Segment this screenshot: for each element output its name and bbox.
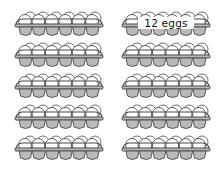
carton-label: 12 eggs	[138, 17, 194, 29]
egg-carton	[120, 41, 212, 68]
egg-carton	[120, 134, 212, 161]
egg-carton	[13, 41, 105, 68]
egg-carton	[13, 10, 105, 37]
egg-carton: 12 eggs	[120, 10, 212, 37]
egg-carton	[13, 72, 105, 99]
egg-carton	[13, 103, 105, 130]
egg-carton	[120, 103, 212, 130]
egg-carton	[120, 72, 212, 99]
egg-carton	[13, 134, 105, 161]
